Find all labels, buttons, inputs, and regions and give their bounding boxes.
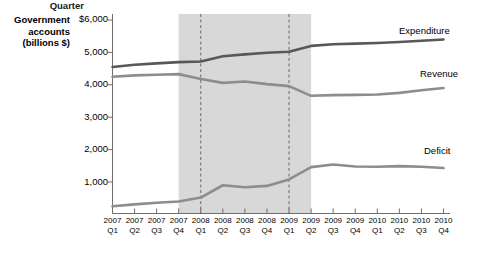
series-label-expenditure: Expenditure bbox=[399, 25, 450, 36]
x-axis-label-year: 2010 bbox=[429, 216, 459, 226]
series-label-deficit: Deficit bbox=[424, 145, 450, 156]
y-axis-ticks bbox=[107, 20, 113, 182]
chart-container: Governmentaccounts(billions $) Quarter $… bbox=[0, 0, 488, 264]
recession-shaded-band bbox=[179, 14, 311, 213]
x-axis-label-quarter: Q4 bbox=[429, 226, 459, 236]
series-label-revenue: Revenue bbox=[420, 68, 458, 79]
x-axis-label: 2010Q4 bbox=[429, 216, 459, 236]
